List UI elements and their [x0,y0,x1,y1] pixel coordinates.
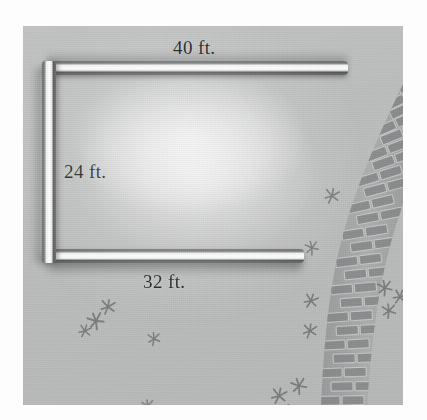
dimension-label-bottom: 32 ft. [143,271,186,293]
illustration-plate: 40 ft. 24 ft. 32 ft. [23,26,403,405]
dimension-label-top: 40 ft. [173,37,216,59]
geometry-figure: 40 ft. 24 ft. 32 ft. [0,0,427,420]
dimension-label-left: 24 ft. [64,161,107,183]
grass-sprigs [23,26,403,405]
